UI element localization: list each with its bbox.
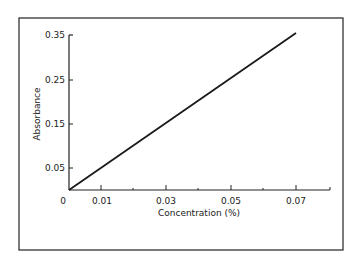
x-ticks: [101, 185, 296, 190]
x-tick-label: 0.01: [92, 196, 112, 206]
y-tick-label: 0.15: [45, 119, 65, 129]
origin-label: 0: [60, 196, 66, 206]
x-tick-label: 0.03: [156, 196, 176, 206]
x-tick-label: 0.05: [221, 196, 241, 206]
y-tick-label: 0.35: [45, 30, 65, 40]
y-tick-label: 0.05: [45, 163, 65, 173]
y-axis-title: Absorbance: [32, 87, 42, 141]
x-axis-title: Concentration (%): [158, 208, 240, 218]
absorbance-chart: 0.05 0.15 0.25 0.35 0 0.01 0.03 0.05 0.0…: [0, 0, 360, 261]
y-tick-label: 0.25: [45, 75, 65, 85]
x-tick-label: 0.07: [286, 196, 306, 206]
absorbance-line: [69, 33, 296, 190]
